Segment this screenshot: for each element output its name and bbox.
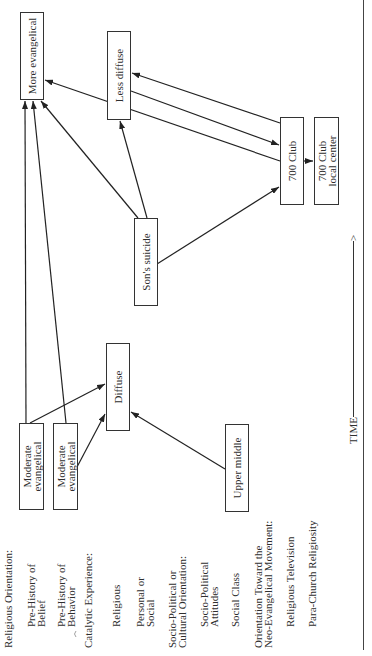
- node-diffuse: Diffuse: [106, 343, 130, 431]
- label-orientation-neo-evangelical: Orientation Toward the Neo-Evangelical M…: [254, 521, 273, 648]
- node-label-line-1: Moderate: [56, 445, 66, 487]
- node-label: Upper middle: [232, 438, 242, 499]
- node-label: Less diffuse: [114, 49, 124, 102]
- label-line: Social Class: [231, 573, 241, 627]
- label-line: Religious Orientation:: [4, 550, 14, 648]
- label-line: Behavior: [67, 564, 77, 627]
- label-pre-history-of-behavior: Pre-History of Behavior: [57, 564, 76, 627]
- label-personal-or-social: Personal or Social: [136, 577, 155, 627]
- label-line: Cultural Orientation:: [178, 556, 188, 648]
- arrow-moderate-evangelical-2-to-more-evangelical: [33, 101, 66, 423]
- label-social-class: Social Class: [231, 573, 241, 627]
- arrow-moderate-evangelical-1-to-more-evangelical: [25, 101, 26, 423]
- label-socio-political-attitudes: Socio-Political Attitudes: [200, 562, 219, 627]
- node-moderate-evangelical-belief: Moderate evangelical: [19, 423, 44, 510]
- arrow-less-diffuse-to-700-club: [131, 91, 279, 145]
- node-label: Son's suicide: [141, 233, 151, 290]
- arrow-moderate-evangelical-1-to-diffuse: [30, 384, 105, 423]
- time-axis-line: [353, 241, 354, 417]
- label-line: Neo-Evangelical Movement:: [264, 521, 274, 648]
- rotated-figure-page: More evangelical Less diffuse 700 Club 7…: [0, 0, 372, 656]
- node-label-line-2: evangelical: [66, 441, 76, 491]
- arrow-moderate-evangelical-2-to-diffuse: [77, 414, 105, 467]
- node-moderate-evangelical-behavior: Moderate evangelical: [53, 423, 78, 510]
- label-religious-television: Religious Television: [286, 537, 296, 627]
- node-label-line-1: 700 Club: [317, 141, 327, 182]
- node-label: Diffuse: [113, 371, 123, 404]
- label-line: Religious Television: [286, 537, 296, 627]
- node-sons-suicide: Son's suicide: [134, 218, 158, 306]
- node-700-club: 700 Club: [280, 117, 304, 205]
- label-para-church-religiosity: Para-Church Religiosity: [308, 520, 318, 627]
- node-upper-middle: Upper middle: [225, 424, 249, 512]
- label-line: Para-Church Religiosity: [308, 520, 318, 627]
- scan-mark: [75, 631, 77, 637]
- node-label: More evangelical: [27, 18, 37, 95]
- label-socio-political-cultural-orientation: Socio-Political or Cultural Orientation:: [168, 556, 187, 648]
- node-label-line-1: Moderate: [22, 445, 32, 487]
- arrow-sons-suicide-to-700-club: [157, 187, 279, 264]
- node-700-club-local-center: 700 Club local center: [314, 117, 339, 205]
- node-less-diffuse: Less diffuse: [107, 31, 131, 120]
- node-label: 700 Club: [287, 141, 297, 182]
- time-axis: TIME>: [348, 235, 359, 444]
- node-more-evangelical: More evangelical: [20, 12, 44, 100]
- label-line: Attitudes: [210, 562, 220, 627]
- label-religious-orientation: Religious Orientation:: [4, 550, 14, 648]
- node-label-line-2: local center: [327, 136, 337, 187]
- label-line: Social: [146, 577, 156, 627]
- label-religious: Religious: [112, 585, 122, 627]
- time-axis-label: TIME: [347, 417, 359, 444]
- node-label-line-2: evangelical: [32, 441, 42, 491]
- label-line: Catalytic Experience:: [84, 553, 94, 648]
- label-line: Belief: [37, 564, 47, 627]
- arrow-sons-suicide-to-less-diffuse: [120, 121, 147, 218]
- label-line: Religious: [112, 585, 122, 627]
- arrow-upper-middle-to-diffuse: [131, 412, 225, 469]
- arrow-700-club-to-less-diffuse: [132, 73, 280, 123]
- label-catalytic-experience: Catalytic Experience:: [84, 553, 94, 648]
- label-pre-history-of-belief: Pre-History of Belief: [27, 564, 46, 627]
